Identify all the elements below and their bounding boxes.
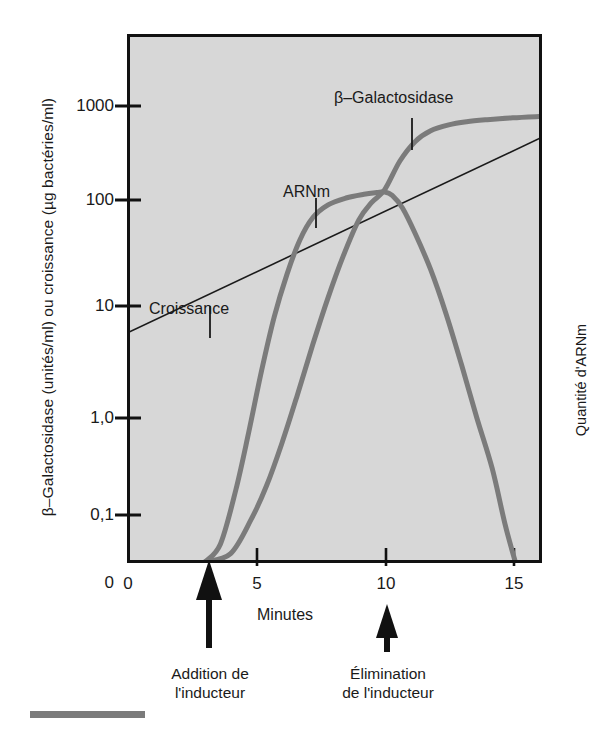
figure-panel: β–Galactosidase (unités/ml) ou croissanc… bbox=[0, 0, 606, 729]
curve-label-arnm: ARNm bbox=[283, 183, 330, 201]
addition-line-2: l'inducteur bbox=[134, 683, 286, 702]
addition-annotation: Addition de l'inducteur bbox=[134, 664, 286, 703]
scale-bar bbox=[30, 711, 145, 718]
y-tick-marks bbox=[115, 106, 141, 515]
curve-label-beta-galactosidase: β–Galactosidase bbox=[334, 89, 454, 107]
chart-overlay bbox=[0, 0, 606, 729]
curve-label-croissance: Croissance bbox=[149, 300, 229, 318]
induction-arrows bbox=[196, 560, 398, 652]
beta-galactosidase-curve bbox=[205, 116, 541, 562]
addition-arrow bbox=[196, 560, 222, 648]
elimination-arrow bbox=[376, 604, 398, 652]
curves-group bbox=[128, 116, 541, 562]
mrna-curve bbox=[205, 192, 515, 562]
x-tick-marks bbox=[257, 548, 514, 566]
elimination-line-2: de l'inducteur bbox=[306, 683, 470, 702]
elimination-line-1: Élimination bbox=[306, 664, 470, 683]
addition-line-1: Addition de bbox=[134, 664, 286, 683]
elimination-annotation: Élimination de l'inducteur bbox=[306, 664, 470, 703]
leader-lines bbox=[210, 118, 412, 338]
